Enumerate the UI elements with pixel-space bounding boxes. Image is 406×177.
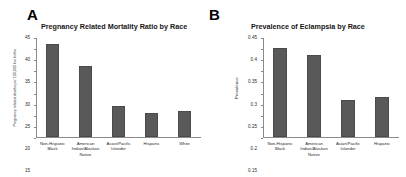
plot-area-a: Pregnancy related deaths per 100,000 liv… bbox=[36, 38, 201, 138]
y-tick-label: 0.35 bbox=[248, 80, 257, 85]
x-category-labels-b: Non-Hispanic BlackAmerican Indian/Alaska… bbox=[263, 38, 399, 138]
y-axis-title-a: Pregnancy related deaths per 100,000 liv… bbox=[14, 49, 18, 127]
y-tick-mark: 0 bbox=[261, 138, 264, 139]
y-tick-mark: 0 bbox=[34, 138, 37, 139]
y-tick-label: 0.15 bbox=[248, 169, 257, 174]
y-tick-label: 25 bbox=[25, 125, 30, 130]
x-category-label: Hispanic bbox=[135, 141, 169, 146]
figure-two-panel-bar-charts: A Pregnancy Related Mortality Ratio by R… bbox=[0, 0, 406, 177]
y-tick-label: 0.45 bbox=[248, 36, 257, 41]
panel-letter-b: B bbox=[209, 7, 220, 22]
y-tick-label: 30 bbox=[25, 102, 30, 107]
panel-b: B Prevalence of Eclampsia by Race Preval… bbox=[203, 0, 406, 177]
x-category-labels-a: Non-Hispanic BlackAmerican Indian/Alaska… bbox=[36, 38, 201, 138]
y-tick-label: 0.2 bbox=[251, 147, 257, 152]
y-axis-title-b: Prevalence bbox=[235, 58, 239, 118]
y-tick-label: 35 bbox=[25, 80, 30, 85]
y-tick-label: 0.25 bbox=[248, 125, 257, 130]
x-category-label: Asian/Pacific Islander bbox=[102, 141, 136, 152]
x-category-label: American Indian/Alaskan Native bbox=[296, 141, 332, 157]
y-tick-label: 15 bbox=[25, 169, 30, 174]
y-tick-label: 0.4 bbox=[251, 58, 257, 63]
panel-letter-a: A bbox=[27, 7, 38, 22]
panel-a: A Pregnancy Related Mortality Ratio by R… bbox=[0, 0, 203, 177]
y-tick-label: 0.3 bbox=[251, 102, 257, 107]
chart-title-b: Prevalence of Eclampsia by Race bbox=[251, 23, 365, 30]
y-tick-label: 20 bbox=[25, 147, 30, 152]
x-category-label: Non-Hispanic Black bbox=[36, 141, 70, 152]
x-category-label: Non-Hispanic Black bbox=[262, 141, 298, 152]
y-tick-label: 45 bbox=[25, 36, 30, 41]
chart-title-a: Pregnancy Related Mortality Ratio by Rac… bbox=[41, 23, 187, 30]
x-category-label: White bbox=[168, 141, 202, 146]
x-category-label: Asian/Pacific Islander bbox=[330, 141, 366, 152]
x-category-label: Hispanic bbox=[364, 141, 400, 146]
y-tick-label: 40 bbox=[25, 58, 30, 63]
plot-area-b: Prevalence 00.050.10.150.20.250.30.350.4… bbox=[263, 38, 399, 138]
x-category-label: American Indian/Alaskan Native bbox=[69, 141, 103, 157]
